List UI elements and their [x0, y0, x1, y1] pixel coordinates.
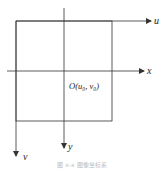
u-axis-label: u	[154, 15, 159, 26]
origin-label: O(u₀, v₀)	[69, 81, 99, 91]
x-axis-label: x	[146, 65, 152, 76]
coordinate-diagram: u x y v O(u₀, v₀) 图 x-x 图像坐标系	[0, 0, 164, 170]
y-axis-label: y	[67, 141, 73, 152]
figure-caption: 图 x-x 图像坐标系	[57, 161, 106, 169]
v-axis-label: v	[23, 151, 28, 162]
